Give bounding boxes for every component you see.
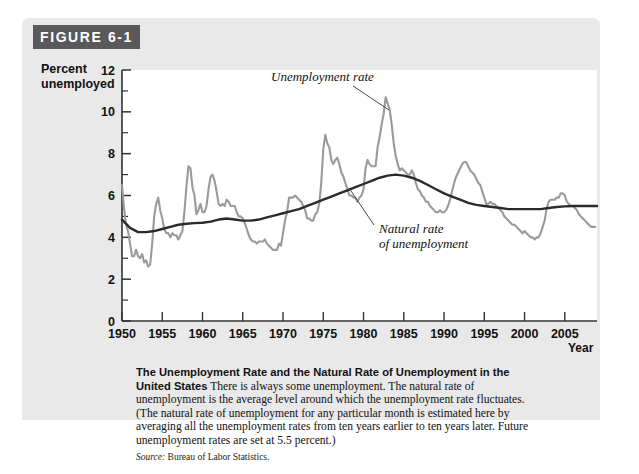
figure-root: FIGURE 6-1 Percentunemployed Year 024681… xyxy=(0,0,639,474)
figure-source: Source: Bureau of Labor Statistics. xyxy=(136,452,269,462)
figure-caption: The Unemployment Rate and the Natural Ra… xyxy=(136,366,538,448)
source-label: Source: xyxy=(136,452,165,462)
source-text: Bureau of Labor Statistics. xyxy=(168,452,270,462)
figure-badge-label: FIGURE 6-1 xyxy=(40,29,133,45)
y-axis-title: Percentunemployed xyxy=(41,62,115,92)
x-axis-title: Year xyxy=(568,341,593,355)
figure-badge: FIGURE 6-1 xyxy=(33,25,140,49)
